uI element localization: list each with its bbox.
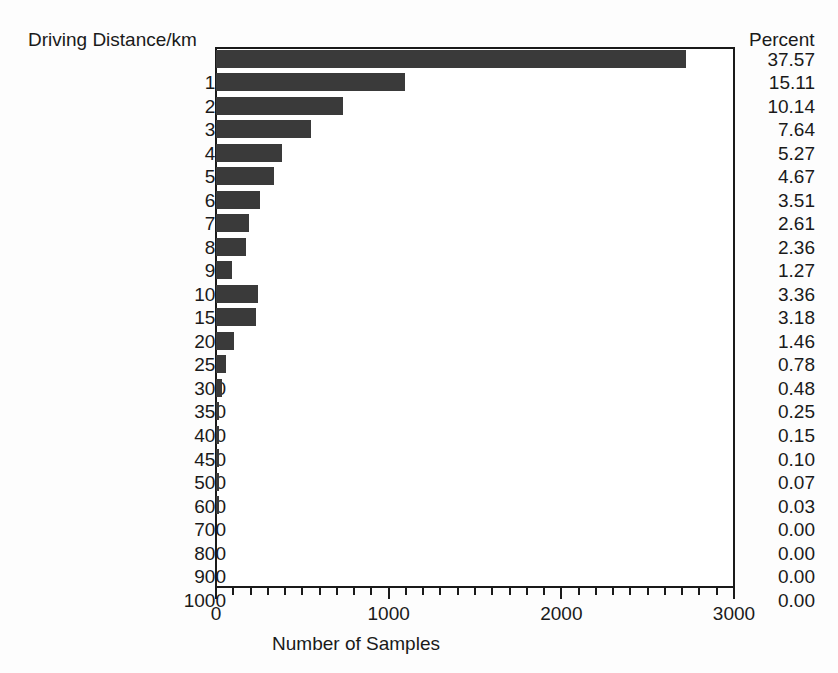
x-axis-minor-tick bbox=[629, 588, 631, 595]
bar-rows-container: 037.571015.112010.14307.64405.27504.6760… bbox=[0, 47, 838, 588]
bar-track bbox=[216, 259, 734, 283]
x-axis-minor-tick bbox=[681, 588, 683, 595]
bar-track bbox=[216, 564, 734, 588]
bar-row: 702.61 bbox=[0, 212, 838, 236]
bar bbox=[216, 496, 219, 514]
x-axis-title-text: Number of Samples bbox=[272, 633, 440, 654]
x-axis-minor-tick bbox=[509, 588, 511, 595]
bar-track bbox=[216, 94, 734, 118]
percent-value: 0.03 bbox=[749, 496, 815, 515]
bar-track bbox=[216, 447, 734, 471]
bar-row: 901.27 bbox=[0, 259, 838, 283]
bar-track bbox=[216, 165, 734, 189]
x-axis-minor-tick bbox=[336, 588, 338, 595]
bar-row: 4500.10 bbox=[0, 447, 838, 471]
x-axis-minor-tick bbox=[664, 588, 666, 595]
bar bbox=[216, 426, 219, 444]
percent-value: 1.46 bbox=[749, 331, 815, 350]
bar-track bbox=[216, 188, 734, 212]
bar-row: 7000.00 bbox=[0, 517, 838, 541]
x-axis-minor-tick bbox=[716, 588, 718, 595]
bar-track bbox=[216, 47, 734, 71]
bar bbox=[216, 73, 405, 91]
x-axis-minor-tick bbox=[232, 588, 234, 595]
x-axis-minor-tick bbox=[405, 588, 407, 595]
x-axis-minor-tick bbox=[491, 588, 493, 595]
percent-value: 2.36 bbox=[749, 237, 815, 256]
bar-track bbox=[216, 71, 734, 95]
x-axis-minor-tick bbox=[267, 588, 269, 595]
x-axis-minor-tick bbox=[284, 588, 286, 595]
percent-value: 0.25 bbox=[749, 402, 815, 421]
x-axis-tick-label: 3000 bbox=[713, 604, 755, 623]
percent-value: 7.64 bbox=[749, 120, 815, 139]
bar bbox=[216, 332, 234, 350]
bar-row: 1015.11 bbox=[0, 71, 838, 95]
x-axis-minor-tick bbox=[698, 588, 700, 595]
x-axis-minor-tick bbox=[439, 588, 441, 595]
bar bbox=[216, 355, 226, 373]
x-axis-major-tick bbox=[388, 588, 390, 599]
bar-track bbox=[216, 306, 734, 330]
bar-row: 2010.14 bbox=[0, 94, 838, 118]
bar-track bbox=[216, 282, 734, 306]
percent-value: 3.51 bbox=[749, 190, 815, 209]
bar bbox=[216, 473, 219, 491]
bar-track bbox=[216, 423, 734, 447]
bar bbox=[216, 167, 274, 185]
bar-track bbox=[216, 353, 734, 377]
x-axis-minor-tick bbox=[319, 588, 321, 595]
percent-value: 0.15 bbox=[749, 426, 815, 445]
bar-row: 603.51 bbox=[0, 188, 838, 212]
bar-track bbox=[216, 329, 734, 353]
bar-track bbox=[216, 541, 734, 565]
x-axis-minor-tick bbox=[422, 588, 424, 595]
bar-row: 802.36 bbox=[0, 235, 838, 259]
x-axis-line bbox=[215, 588, 735, 589]
bar bbox=[216, 120, 311, 138]
percent-value: 3.18 bbox=[749, 308, 815, 327]
bar bbox=[216, 261, 232, 279]
bar-track bbox=[216, 470, 734, 494]
x-axis-minor-tick bbox=[578, 588, 580, 595]
bar-track bbox=[216, 517, 734, 541]
bar-row: 2001.46 bbox=[0, 329, 838, 353]
bar-row: 1003.36 bbox=[0, 282, 838, 306]
bar-track bbox=[216, 494, 734, 518]
bar-track bbox=[216, 235, 734, 259]
bar-row: 5000.07 bbox=[0, 470, 838, 494]
bar bbox=[216, 50, 686, 68]
bar bbox=[216, 238, 246, 256]
bar bbox=[216, 97, 343, 115]
bar bbox=[216, 402, 219, 420]
x-axis-tick-label: 2000 bbox=[540, 604, 582, 623]
x-axis-minor-tick bbox=[474, 588, 476, 595]
bar bbox=[216, 379, 222, 397]
x-axis-title: Number of Samples bbox=[0, 634, 838, 653]
percent-value: 0.00 bbox=[749, 590, 815, 609]
x-axis-tick-label: 1000 bbox=[368, 604, 410, 623]
percent-value: 3.36 bbox=[749, 284, 815, 303]
bar-row: 2500.78 bbox=[0, 353, 838, 377]
bar-track bbox=[216, 212, 734, 236]
percent-value: 37.57 bbox=[749, 49, 815, 68]
bar-row: 307.64 bbox=[0, 118, 838, 142]
x-axis-minor-tick bbox=[457, 588, 459, 595]
percent-value: 4.67 bbox=[749, 167, 815, 186]
percent-value: 0.00 bbox=[749, 520, 815, 539]
bar bbox=[216, 144, 282, 162]
percent-value: 0.48 bbox=[749, 378, 815, 397]
bar-track bbox=[216, 376, 734, 400]
x-axis-minor-tick bbox=[595, 588, 597, 595]
bar-row: 4000.15 bbox=[0, 423, 838, 447]
chart-figure: Driving Distance/km Percent 037.571015.1… bbox=[0, 0, 838, 673]
x-axis-minor-tick bbox=[250, 588, 252, 595]
bar-row: 3500.25 bbox=[0, 400, 838, 424]
x-axis-major-tick bbox=[560, 588, 562, 599]
x-axis-minor-tick bbox=[543, 588, 545, 595]
x-axis-major-tick bbox=[733, 588, 735, 599]
bar-row: 405.27 bbox=[0, 141, 838, 165]
x-axis-minor-tick bbox=[301, 588, 303, 595]
x-axis-minor-tick bbox=[370, 588, 372, 595]
x-axis-minor-tick bbox=[647, 588, 649, 595]
